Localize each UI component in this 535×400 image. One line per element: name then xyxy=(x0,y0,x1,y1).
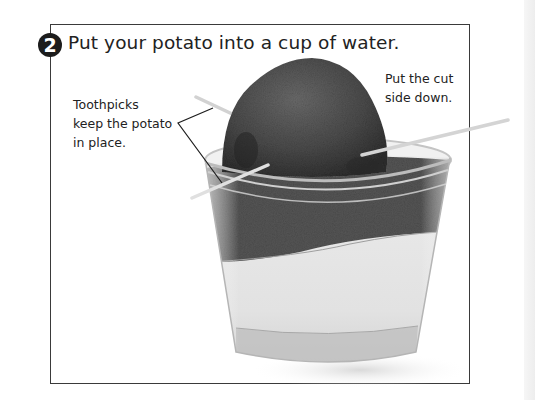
callout-text-line: Put the cut xyxy=(385,69,453,88)
callout-text-line: keep the potato xyxy=(73,114,172,133)
step-number-badge: 2 xyxy=(38,33,62,57)
page-edge-strip xyxy=(524,0,535,400)
callout-text-line: in place. xyxy=(73,133,172,152)
toothpicks-callout: Toothpicks keep the potato in place. xyxy=(73,95,172,152)
callout-text-line: side down. xyxy=(385,88,453,107)
step-title: Put your potato into a cup of water. xyxy=(68,32,400,53)
callout-text-line: Toothpicks xyxy=(73,95,172,114)
cut-side-callout: Put the cut side down. xyxy=(385,69,453,107)
